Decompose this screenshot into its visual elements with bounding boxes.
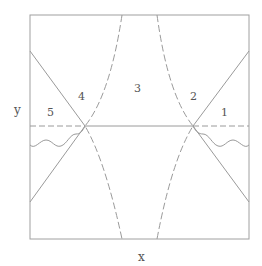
left-lower-diagonal bbox=[30, 126, 85, 202]
right-lower-diagonal bbox=[193, 126, 249, 202]
right-dashed-curve bbox=[157, 15, 193, 239]
region-label-3: 3 bbox=[134, 82, 141, 95]
phase-diagram: 1 2 3 4 5 y x bbox=[0, 0, 262, 266]
right-wavy-line bbox=[193, 126, 249, 146]
y-axis-label: y bbox=[13, 103, 21, 117]
x-axis-label: x bbox=[138, 250, 145, 264]
region-label-1: 1 bbox=[221, 106, 228, 119]
left-dashed-curve bbox=[85, 15, 122, 239]
region-label-5: 5 bbox=[47, 106, 54, 119]
left-wavy-line bbox=[30, 126, 85, 146]
left-upper-diagonal bbox=[30, 51, 85, 126]
region-label-2: 2 bbox=[190, 90, 197, 103]
region-label-4: 4 bbox=[78, 90, 85, 103]
plot-frame bbox=[30, 15, 249, 239]
